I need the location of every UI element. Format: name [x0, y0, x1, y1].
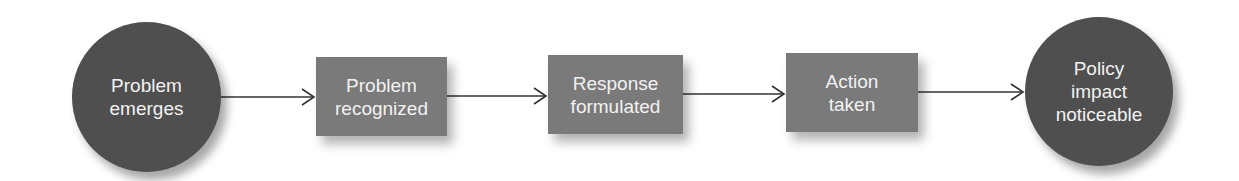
node-response-formulated: Response formulated — [548, 55, 683, 134]
arrow-1 — [220, 89, 314, 105]
node-label: Problem recognized — [335, 74, 428, 120]
node-label: Action taken — [826, 70, 879, 116]
node-label: Policy impact noticeable — [1056, 57, 1143, 126]
node-policy-impact-noticeable: Policy impact noticeable — [1025, 17, 1173, 166]
node-problem-emerges: Problem emerges — [72, 22, 221, 172]
arrow-2 — [447, 88, 546, 104]
arrow-3 — [683, 86, 784, 102]
node-label: Problem emerges — [110, 74, 184, 120]
node-label: Response formulated — [571, 72, 661, 118]
node-problem-recognized: Problem recognized — [316, 57, 447, 136]
arrow-4 — [918, 84, 1023, 100]
node-action-taken: Action taken — [786, 53, 918, 132]
